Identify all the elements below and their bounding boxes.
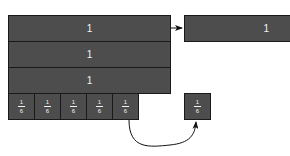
arrows-layer	[0, 0, 290, 156]
curved-arrow-icon	[129, 120, 196, 146]
